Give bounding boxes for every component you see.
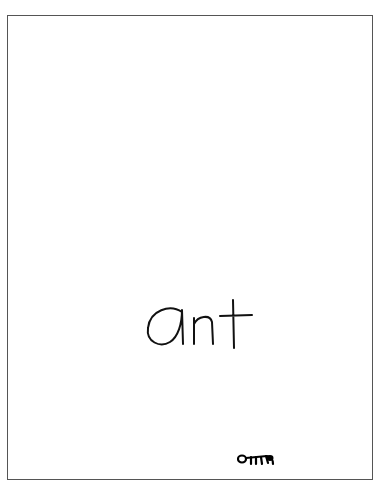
- handwritten-ant-text: [140, 292, 260, 352]
- handwritten-word: ant: [140, 292, 260, 352]
- page-frame: [7, 15, 373, 480]
- ant-icon: [237, 450, 277, 466]
- ant-sketch: [237, 450, 277, 466]
